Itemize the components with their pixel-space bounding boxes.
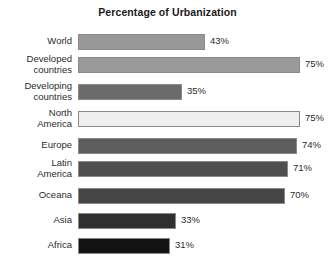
category-label-line: Developed bbox=[0, 53, 72, 64]
bar-value-label: 31% bbox=[175, 239, 194, 250]
category-label: Developedcountries bbox=[0, 53, 72, 75]
category-label: NorthAmerica bbox=[0, 107, 72, 129]
category-label: Asia bbox=[0, 214, 72, 225]
bar-row: World43% bbox=[0, 31, 335, 53]
bar-track bbox=[78, 138, 297, 154]
category-label-line: Oceana bbox=[0, 189, 72, 200]
bar-row: Europe74% bbox=[0, 135, 335, 157]
category-label: Africa bbox=[0, 239, 72, 250]
category-label-line: America bbox=[0, 168, 72, 179]
bar-row: Developingcountries35% bbox=[0, 81, 335, 103]
bar-row: Asia33% bbox=[0, 210, 335, 232]
category-label: Europe bbox=[0, 139, 72, 150]
bar[interactable] bbox=[78, 213, 176, 229]
category-label-line: Africa bbox=[0, 239, 72, 250]
category-label-line: World bbox=[0, 35, 72, 46]
category-label: World bbox=[0, 35, 72, 46]
bar[interactable] bbox=[78, 238, 170, 254]
bar-value-label: 70% bbox=[290, 189, 309, 200]
category-label: Developingcountries bbox=[0, 80, 72, 102]
bar[interactable] bbox=[78, 34, 205, 50]
bar-value-label: 71% bbox=[293, 162, 312, 173]
bar-row: NorthAmerica75% bbox=[0, 108, 335, 130]
bar-row: Africa31% bbox=[0, 235, 335, 257]
category-label-line: countries bbox=[0, 64, 72, 75]
bar-track bbox=[78, 188, 285, 204]
bar-row: Developedcountries75% bbox=[0, 54, 335, 76]
bar[interactable] bbox=[78, 138, 297, 154]
category-label-line: Asia bbox=[0, 214, 72, 225]
bar-track bbox=[78, 84, 182, 100]
category-label-line: North bbox=[0, 107, 72, 118]
bar-track bbox=[78, 111, 300, 127]
urbanization-bar-chart: Percentage of Urbanization World43%Devel… bbox=[0, 0, 335, 270]
category-label: LatinAmerica bbox=[0, 157, 72, 179]
bar-value-label: 35% bbox=[187, 85, 206, 96]
bar-value-label: 75% bbox=[305, 112, 324, 123]
bar-track bbox=[78, 161, 288, 177]
bar[interactable] bbox=[78, 84, 182, 100]
bar-value-label: 43% bbox=[210, 35, 229, 46]
bar[interactable] bbox=[78, 57, 300, 73]
bar-row: LatinAmerica71% bbox=[0, 158, 335, 180]
category-label: Oceana bbox=[0, 189, 72, 200]
chart-title: Percentage of Urbanization bbox=[0, 6, 335, 18]
bar-track bbox=[78, 213, 176, 229]
category-label-line: Developing bbox=[0, 80, 72, 91]
category-label-line: America bbox=[0, 118, 72, 129]
bar-row: Oceana70% bbox=[0, 185, 335, 207]
bar-value-label: 33% bbox=[181, 214, 200, 225]
category-label-line: Europe bbox=[0, 139, 72, 150]
bar-track bbox=[78, 57, 300, 73]
bar-value-label: 75% bbox=[305, 58, 324, 69]
category-label-line: countries bbox=[0, 91, 72, 102]
bar-track bbox=[78, 34, 205, 50]
bar-value-label: 74% bbox=[302, 139, 321, 150]
bar-track bbox=[78, 238, 170, 254]
bar[interactable] bbox=[78, 188, 285, 204]
bar[interactable] bbox=[78, 161, 288, 177]
plot-area: World43%Developedcountries75%Developingc… bbox=[0, 28, 335, 266]
bar[interactable] bbox=[78, 111, 300, 127]
category-label-line: Latin bbox=[0, 157, 72, 168]
